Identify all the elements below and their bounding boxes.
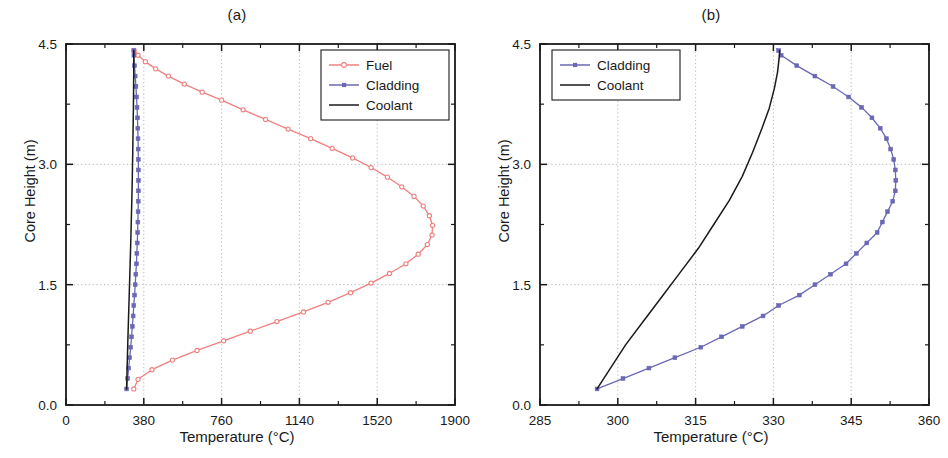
y-tick-label: 3.0: [38, 157, 57, 172]
data-point: [412, 194, 416, 198]
data-point: [430, 223, 434, 227]
data-point: [673, 356, 677, 360]
panel-b-x-axis-title: Temperature (°C): [474, 428, 948, 445]
data-point: [400, 185, 404, 189]
data-point: [797, 293, 801, 297]
x-tick-label: 1520: [362, 413, 392, 428]
data-point: [130, 324, 134, 328]
data-point: [385, 175, 389, 179]
data-point: [369, 281, 373, 285]
x-tick-label: 760: [210, 413, 233, 428]
x-tick-label: 1900: [440, 413, 470, 428]
chart-panel-b: (b) 2853003153303453600.01.53.04.5Claddi…: [474, 0, 948, 458]
y-tick-label: 0.0: [512, 398, 531, 413]
x-tick-label: 1140: [285, 413, 314, 428]
y-tick-label: 3.0: [512, 157, 531, 172]
data-point: [136, 126, 140, 130]
legend-label-coolant: Coolant: [366, 98, 413, 113]
data-point: [135, 241, 139, 245]
data-point: [330, 146, 334, 150]
data-point: [134, 272, 138, 276]
data-point: [416, 252, 420, 256]
legend: FuelCladdingCoolant: [321, 50, 449, 120]
data-point: [136, 220, 140, 224]
data-point: [195, 348, 199, 352]
data-point: [130, 335, 134, 339]
data-point: [182, 82, 186, 86]
chart-panel-a: (a) 03807601140152019000.01.53.04.5FuelC…: [0, 0, 474, 458]
legend-label-coolant: Coolant: [597, 78, 644, 93]
data-point: [889, 147, 893, 151]
data-point: [135, 105, 139, 109]
data-point: [264, 117, 268, 121]
data-point: [143, 60, 147, 64]
data-point: [740, 324, 744, 328]
data-point: [136, 210, 140, 214]
data-point: [720, 335, 724, 339]
data-point: [875, 231, 879, 235]
data-point: [886, 210, 890, 214]
data-point: [150, 368, 154, 372]
data-point: [133, 283, 137, 287]
data-point: [699, 345, 703, 349]
data-point: [248, 329, 252, 333]
data-point: [892, 158, 896, 162]
y-tick-label: 1.5: [38, 278, 57, 293]
data-point: [309, 137, 313, 141]
x-tick-label: 0: [62, 413, 70, 428]
data-point: [200, 90, 204, 94]
legend-label-cladding: Cladding: [366, 78, 419, 93]
data-point: [844, 262, 848, 266]
data-point: [166, 74, 170, 78]
data-point: [222, 339, 226, 343]
data-point: [136, 158, 140, 162]
data-point: [136, 137, 140, 141]
data-point: [893, 168, 897, 172]
data-point: [893, 189, 897, 193]
panel-b-svg: 2853003153303453600.01.53.04.5CladdingCo…: [474, 0, 948, 458]
data-point: [829, 272, 833, 276]
legend-label-cladding: Cladding: [597, 58, 650, 73]
data-point: [131, 314, 135, 318]
x-tick-label: 285: [529, 413, 552, 428]
y-tick-label: 1.5: [512, 278, 531, 293]
data-point: [136, 199, 140, 203]
data-point: [894, 178, 898, 182]
data-point: [136, 178, 140, 182]
data-point: [860, 105, 864, 109]
data-point: [301, 310, 305, 314]
data-point: [136, 189, 140, 193]
data-point: [241, 108, 245, 112]
panel-b-plot-area: 2853003153303453600.01.53.04.5CladdingCo…: [474, 0, 948, 458]
data-point: [275, 319, 279, 323]
y-tick-label: 4.5: [38, 37, 57, 52]
y-tick-label: 0.0: [38, 398, 57, 413]
data-point: [135, 95, 139, 99]
x-tick-label: 345: [840, 413, 863, 428]
data-point: [326, 300, 330, 304]
data-point: [387, 271, 391, 275]
data-point: [133, 293, 137, 297]
data-point: [761, 314, 765, 318]
data-point: [286, 127, 290, 131]
panel-a-svg: 03807601140152019000.01.53.04.5FuelCladd…: [0, 0, 474, 458]
data-point: [134, 85, 138, 89]
data-point: [136, 53, 140, 57]
data-point: [891, 199, 895, 203]
data-point: [351, 156, 355, 160]
data-point: [348, 291, 352, 295]
x-tick-label: 315: [684, 413, 707, 428]
data-point: [647, 366, 651, 370]
y-tick-label: 4.5: [512, 37, 531, 52]
data-point: [854, 251, 858, 255]
data-point: [220, 98, 224, 102]
series-line-coolant: [597, 50, 780, 389]
data-point: [621, 377, 625, 381]
data-point: [170, 358, 174, 362]
data-point: [132, 387, 136, 391]
data-point: [880, 220, 884, 224]
x-tick-label: 330: [762, 413, 785, 428]
panel-a-x-axis-title: Temperature (°C): [0, 428, 474, 445]
data-point: [136, 377, 140, 381]
data-point: [878, 126, 882, 130]
